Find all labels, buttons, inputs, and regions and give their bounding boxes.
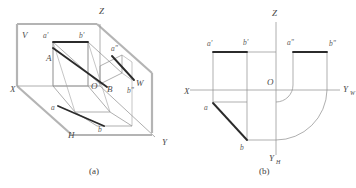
diag-aprime-a [53,42,75,112]
h-plane-rectangle [75,112,132,126]
b-yw-axis-label: Y [343,84,349,94]
a-z-axis-label: Z [99,6,105,16]
caption-a: (a) [89,166,99,176]
b-horizontal-projection-a-b [213,103,247,140]
b-point-aprime-label: a' [207,39,213,48]
a-point-bdp-label: b" [127,86,135,95]
b-point-bdp-label: b" [329,39,337,48]
a-point-adp-label: a" [111,44,119,53]
a-point-B-label: B [107,84,113,94]
b-frontal-view [213,52,276,140]
a-origin-label: O [91,81,98,91]
b-point-b-label: b [240,143,244,152]
b-point-a-label: a [204,103,208,112]
caption-b: (b) [259,166,270,176]
b-yw-axis-subscript: W [350,90,356,96]
horizontal-projection-a-b [58,106,104,126]
line-adoubleprime-out [122,55,132,62]
a-point-a-label: a [51,103,55,112]
b-profile-view [293,52,327,90]
b-yh-axis-label: Y [269,153,275,163]
w-plane-top-edge [97,24,152,73]
b-z-axis-label: Z [272,8,278,18]
b-x-axis-label: X [183,86,190,96]
a-y-axis-label: Y [162,137,168,147]
b-transfer-arc-outer [276,90,327,140]
b-point-bprime-label: b' [243,38,249,47]
projection-figure: X Y Z V H W a' b' a" b" A B O a b [0,0,356,188]
figure-root: X Y Z V H W a' b' a" b" A B O a b [0,0,356,188]
diagram-b-group: X Z Y W Y H a' b' a" b" O a b [183,8,356,165]
a-point-A-label: A [45,53,52,63]
b-origin-label: O [267,77,274,87]
b-transfer-arc-inner [276,85,293,102]
a-v-plane-label: V [22,30,29,40]
b-point-adp-label: a" [287,38,295,47]
v-plane-rectangle [53,42,88,86]
a-w-plane-label: W [136,78,145,88]
a-point-aprime-label: a' [43,31,49,40]
a-x-axis-label: X [9,84,16,94]
b-yh-axis-subscript: H [275,159,281,165]
a-point-bprime-label: b' [79,31,85,40]
diagram-a-group: X Y Z V H W a' b' a" b" A B O a b [9,6,168,147]
w-plane-rectangle [100,55,122,84]
a-h-plane-label: H [67,130,75,140]
h-plane-left-edge [17,86,72,135]
a-point-b-label: b [98,125,102,134]
b-transfer-arcs [276,78,327,140]
